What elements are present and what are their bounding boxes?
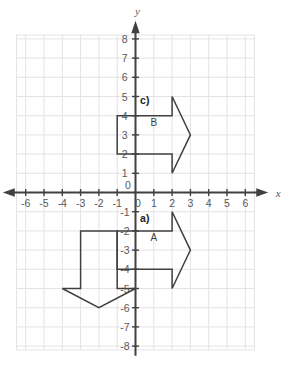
y-tick-label-8: 8 bbox=[122, 33, 128, 45]
shape-label-a: A bbox=[150, 232, 157, 243]
x-tick-label-5: 5 bbox=[224, 197, 230, 209]
x-tick-label-3: 3 bbox=[187, 197, 193, 209]
x-tick-label-6: 6 bbox=[242, 197, 248, 209]
x-tick-label-4: 4 bbox=[206, 197, 212, 209]
x-tick-label--2: -2 bbox=[94, 197, 103, 209]
shape-and-part-labels: BAc)a) bbox=[140, 94, 157, 243]
y-tick-label--3: -3 bbox=[120, 244, 129, 256]
y-tick-label-3: 3 bbox=[122, 129, 128, 141]
axis-tick-labels: -6-5-4-3-2-10123456012345678-1-2-3-4-5-6… bbox=[21, 5, 281, 352]
x-tick-label--3: -3 bbox=[76, 197, 85, 209]
shape-label-b: B bbox=[150, 117, 157, 128]
y-tick-label-5: 5 bbox=[122, 91, 128, 103]
x-tick-label-1: 1 bbox=[151, 197, 157, 209]
y-tick-label--8: -8 bbox=[120, 340, 129, 352]
y-tick-label-7: 7 bbox=[122, 52, 128, 64]
part-a-label: a) bbox=[140, 212, 149, 224]
coordinate-plane-figure: -6-5-4-3-2-10123456012345678-1-2-3-4-5-6… bbox=[0, 0, 296, 375]
part-c-label: c) bbox=[140, 94, 149, 106]
coordinate-grid-svg: -6-5-4-3-2-10123456012345678-1-2-3-4-5-6… bbox=[0, 0, 296, 375]
y-axis-arrowhead bbox=[131, 21, 139, 33]
y-tick-label-6: 6 bbox=[122, 71, 128, 83]
x-axis-arrowhead bbox=[256, 188, 268, 196]
y-tick-label--7: -7 bbox=[120, 321, 129, 333]
axis-lines bbox=[3, 21, 268, 356]
x-tick-label-0: 0 bbox=[135, 197, 141, 209]
x-axis-arrowhead-negative bbox=[3, 188, 15, 196]
origin-label-above: 0 bbox=[125, 179, 131, 191]
y-axis-label: y bbox=[134, 5, 140, 17]
x-tick-label--5: -5 bbox=[39, 197, 48, 209]
y-tick-label-1: 1 bbox=[122, 167, 128, 179]
x-axis-label: x bbox=[275, 187, 281, 199]
y-tick-label--6: -6 bbox=[120, 302, 129, 314]
y-tick-label--1: -1 bbox=[120, 206, 129, 218]
x-tick-label--4: -4 bbox=[58, 197, 67, 209]
x-tick-label-2: 2 bbox=[169, 197, 175, 209]
x-tick-label--6: -6 bbox=[21, 197, 30, 209]
